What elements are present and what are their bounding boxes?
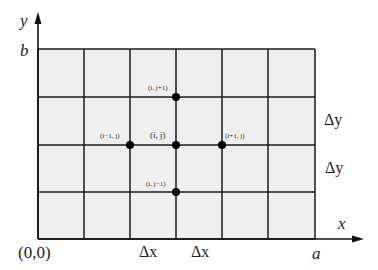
node-point-bottom — [172, 188, 180, 196]
node-label-i-jplus1: (i, j+1) — [148, 85, 168, 92]
x-end-label-a: a — [312, 245, 321, 262]
node-point-center — [172, 141, 180, 149]
x-axis-arrowhead-icon — [352, 236, 364, 243]
delta-x-label-1: Δx — [139, 244, 157, 260]
y-axis-arrowhead-icon — [35, 12, 42, 24]
node-label-i-j: (i, j) — [150, 131, 166, 140]
node-label-i-jminus1: (i, j−1) — [146, 181, 166, 188]
node-point-left — [126, 141, 134, 149]
y-axis-label: y — [20, 12, 28, 29]
node-label-iminus1-j: (i−1, j) — [100, 133, 120, 140]
origin-label: (0,0) — [18, 244, 51, 261]
node-label-iplus1-j: (i+1, j) — [225, 133, 245, 140]
delta-y-label-1: Δy — [324, 112, 342, 128]
x-axis-label: x — [338, 215, 346, 232]
grid-canvas — [0, 0, 378, 270]
y-end-label-b: b — [20, 42, 29, 59]
delta-y-label-2: Δy — [325, 160, 343, 176]
node-point-top — [172, 93, 180, 101]
finite-difference-grid-diagram: y b x (0,0) a Δx Δx Δy Δy (i, j+1) (i−1,… — [0, 0, 378, 270]
node-point-right — [218, 141, 226, 149]
delta-x-label-2: Δx — [191, 244, 209, 260]
